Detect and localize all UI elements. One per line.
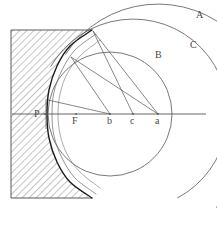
diagram-canvas: PFbcaACB [0,0,217,230]
label-arc-B: B [155,49,162,60]
arc-A [66,4,217,207]
ray-b-to-upper [71,57,110,114]
label-point-b: b [107,115,112,126]
ray-a-to-top [93,31,158,114]
label-point-F: F [72,115,78,126]
label-point-P: P [34,108,40,119]
label-arc-A: A [196,9,204,20]
ray-a-to-upper [71,57,158,114]
axis-point-marker-P [44,113,46,115]
optical-diagram-figure: PFbcaACB [0,0,217,230]
label-point-a: a [155,115,160,126]
label-arc-C: C [190,39,197,50]
ray-c-to-top [93,31,133,114]
diagram-labels: PFbcaACB [34,9,204,126]
ray-b-to-P-side [48,100,110,114]
label-point-c: c [130,115,135,126]
